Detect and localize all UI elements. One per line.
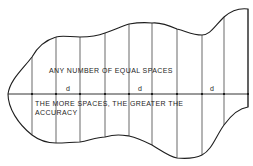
caption-accuracy-line1: THE MORE SPACES, THE GREATER THE [35, 100, 183, 107]
spacing-label-d-2: d [138, 85, 142, 92]
caption-equal-spaces: ANY NUMBER OF EQUAL SPACES [49, 67, 173, 75]
irregular-shape-outline [8, 9, 248, 159]
spacing-label-d-3: d [210, 85, 214, 92]
caption-accuracy-line2: ACCURACY [35, 109, 77, 116]
ordinate-lines [32, 9, 248, 158]
area-diagram: d d d ANY NUMBER OF EQUAL SPACES THE MOR… [0, 0, 253, 166]
spacing-label-d-1: d [66, 85, 70, 92]
